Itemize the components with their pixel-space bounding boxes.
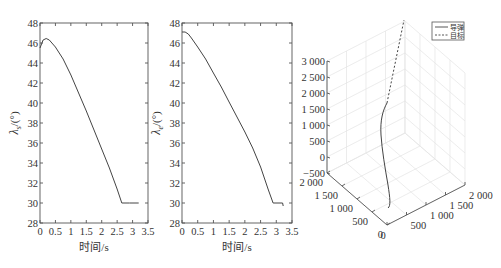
z-tick — [327, 61, 330, 62]
y-tick-label: 32 — [170, 178, 181, 189]
x-tick-label: 2 — [242, 226, 247, 237]
x-tick-label: 500 — [411, 220, 427, 231]
y-tick-label: 500 — [352, 216, 368, 227]
z-tick — [327, 141, 330, 142]
y-tick-label: 34 — [28, 158, 39, 169]
x-tick-label: 0 — [179, 226, 184, 237]
x-tick-label: 3.5 — [285, 226, 298, 237]
data-line — [40, 39, 139, 204]
grid-line — [357, 159, 435, 199]
grid-line — [342, 146, 420, 186]
y-tick-label: 32 — [28, 178, 39, 189]
y-tick-label: 40 — [170, 98, 181, 109]
z-tick-label: 2 000 — [301, 88, 325, 99]
y-tick-label: 0 — [378, 229, 383, 240]
legend: 导弹目标 — [432, 22, 464, 40]
y-tick-label: 48 — [170, 18, 181, 29]
y-tick-label: 46 — [28, 38, 39, 49]
x-tick-label: 0 — [37, 226, 42, 237]
z-tick-label: 1 000 — [301, 120, 325, 131]
z-tick-label: 0 — [320, 152, 325, 163]
y-tick-label: 38 — [170, 118, 181, 129]
y-axis-label: λe/(°) — [149, 111, 165, 136]
target-trajectory — [387, 20, 404, 103]
grid-line — [372, 172, 450, 212]
x-tick-label: 1 000 — [430, 210, 454, 221]
z-tick — [327, 125, 330, 126]
x-tick-label: 1.5 — [223, 226, 236, 237]
y-tick-label: 48 — [28, 18, 39, 29]
x-tick-label: 0.5 — [191, 226, 204, 237]
x-tick-label: 3 — [274, 226, 279, 237]
z-tick — [327, 157, 330, 158]
lambda-s-chart: 00.511.522.533.52830323436384042444648时间… — [7, 18, 155, 253]
y-axis-label: λs/(°) — [7, 111, 23, 135]
x-tick-label: 0.5 — [49, 226, 62, 237]
x-tick-label: 1 — [211, 226, 216, 237]
y-tick-label: 42 — [170, 78, 181, 89]
y-tick-label: 36 — [28, 138, 39, 149]
data-line — [182, 32, 283, 206]
x-axis-label: 时间/s — [222, 241, 251, 253]
x-tick-label: 1 — [68, 226, 73, 237]
y-tick-label: 34 — [170, 158, 181, 169]
y-tick-label: 28 — [28, 218, 39, 229]
z-tick-label: 2 500 — [301, 72, 325, 83]
y-tick-label: 1 500 — [314, 190, 338, 201]
y-tick-label: 46 — [170, 38, 181, 49]
x-tick-label: 2.5 — [111, 226, 124, 237]
trajectory-3d-chart: 05001 0001 5002 00005001 0001 5002 000−5… — [299, 20, 492, 241]
y-tick-label: 36 — [170, 138, 181, 149]
z-tick — [327, 93, 330, 94]
chart-figure: 00.511.522.533.52830323436384042444648时间… — [0, 0, 501, 268]
legend-label: 目标 — [450, 31, 464, 40]
x-tick-label: 3.5 — [141, 226, 154, 237]
plot-area-frame — [40, 23, 148, 223]
y-tick-label: 40 — [28, 98, 39, 109]
z-tick-label: 1 500 — [301, 104, 325, 115]
plot-area-frame — [182, 23, 292, 223]
z-tick — [327, 109, 330, 110]
z-tick-label: −500 — [303, 168, 325, 179]
y-tick-label: 28 — [170, 218, 181, 229]
y-tick-label: 30 — [28, 198, 39, 209]
x-axis-label: 时间/s — [79, 241, 108, 253]
y-tick-label: 38 — [28, 118, 39, 129]
x-tick-label: 1.5 — [80, 226, 93, 237]
y-tick-label: 1 000 — [329, 203, 353, 214]
y-tick-label: 30 — [170, 198, 181, 209]
z-tick-label: 3 000 — [301, 56, 325, 67]
x-tick-label: 2 — [99, 226, 104, 237]
y-tick-label: 44 — [28, 58, 39, 69]
x-tick-label: 2.5 — [254, 226, 267, 237]
legend-label: 导弹 — [450, 23, 464, 32]
y-tick-label: 44 — [170, 58, 181, 69]
lambda-e-chart: 00.511.522.533.52830323436384042444648时间… — [149, 18, 299, 253]
x-tick-label: 2 000 — [469, 190, 493, 201]
x-tick-label: 3 — [130, 226, 135, 237]
z-tick-label: 500 — [309, 136, 325, 147]
x-tick-label: 1 500 — [450, 200, 474, 211]
y-tick-label: 42 — [28, 78, 39, 89]
z-tick — [327, 77, 330, 78]
